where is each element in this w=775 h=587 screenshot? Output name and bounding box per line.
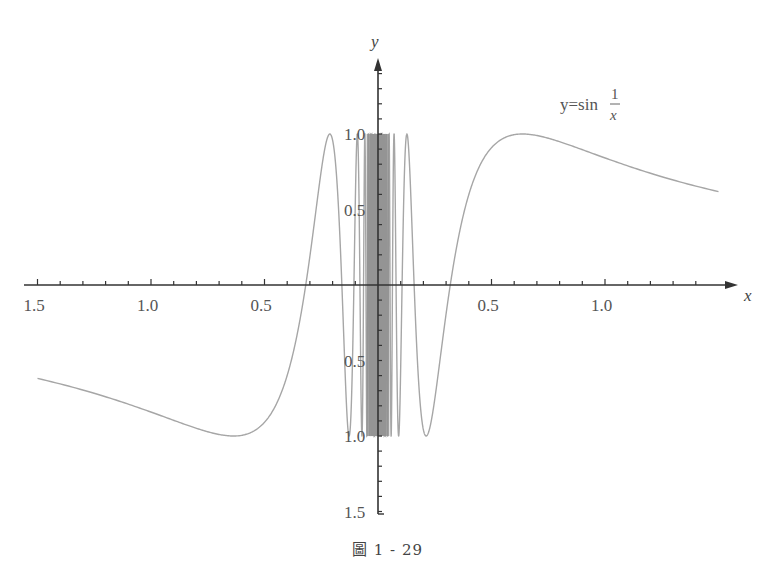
figure-caption: 圖 1 - 29 — [0, 538, 775, 559]
formula-lhs: y=sin — [560, 95, 598, 114]
x-axis-label: x — [743, 286, 752, 305]
y-axis-label: y — [369, 32, 379, 51]
x-axis-arrow-icon — [725, 281, 738, 289]
formula-numerator: 1 — [611, 86, 619, 102]
tick-labels: 1.51.00.50.51.01.00.50.51.01.5 — [24, 125, 613, 522]
x-tick-label: 0.5 — [478, 296, 499, 315]
x-tick-label: 0.5 — [251, 296, 272, 315]
x-tick-label: 1.0 — [591, 296, 612, 315]
y-tick-label: 0.5 — [344, 352, 365, 371]
x-tick-label: 1.5 — [24, 296, 45, 315]
y-tick-label: 1.0 — [344, 125, 365, 144]
formula-denominator: x — [609, 107, 617, 123]
y-axis-arrow-icon — [374, 58, 382, 71]
x-tick-label: 1.0 — [137, 296, 158, 315]
formula-legend: y=sin 1 x — [560, 86, 620, 123]
y-tick-label: 1.5 — [344, 503, 365, 522]
y-tick-label: 1.0 — [344, 427, 365, 446]
chart-sin-1-over-x: 1.51.00.50.51.01.00.50.51.01.5 x y y=sin… — [0, 0, 775, 587]
y-tick-label: 0.5 — [344, 201, 365, 220]
